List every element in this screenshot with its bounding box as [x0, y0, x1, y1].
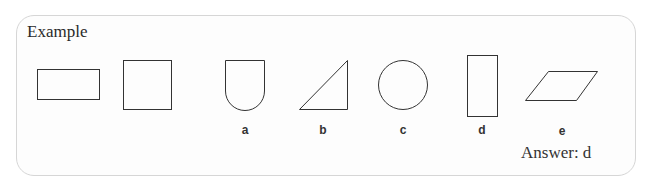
option-d-rectangle [468, 56, 498, 117]
option-b-triangle [300, 61, 348, 110]
answer-text: Answer: d [521, 143, 591, 163]
option-c-circle [379, 61, 428, 110]
option-a-shield [226, 61, 265, 111]
option-e-parallelogram [526, 72, 598, 101]
given-square [124, 61, 172, 110]
option-b-label: b [319, 123, 326, 137]
option-d-label: d [478, 123, 485, 137]
option-e-label: e [559, 124, 566, 138]
given-rectangle [38, 70, 100, 100]
option-a-label: a [242, 123, 249, 137]
option-c-label: c [400, 123, 407, 137]
